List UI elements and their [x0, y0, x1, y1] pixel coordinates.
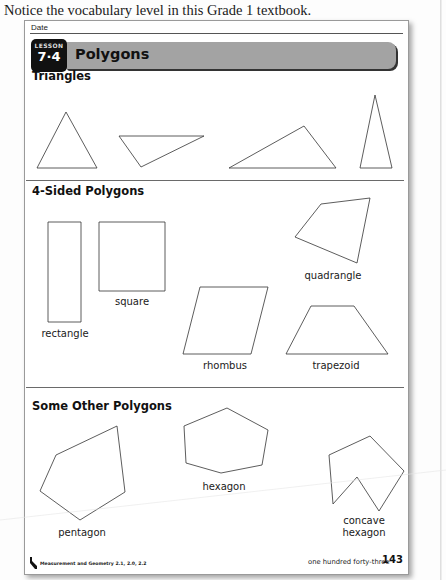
label-rectangle: rectangle	[41, 328, 88, 340]
isosceles-triangle-shape	[360, 95, 392, 168]
rhombus-shape	[183, 287, 268, 354]
label-hexagon: hexagon	[202, 481, 245, 493]
label-quadrangle: quadrangle	[304, 270, 361, 282]
concave-hexagon-shape	[329, 436, 404, 511]
label-concave-hexagon-line2: hexagon	[342, 527, 385, 539]
acute-triangle-shape	[37, 112, 97, 168]
hexagon-shape	[184, 408, 268, 473]
label-pentagon: pentagon	[58, 527, 106, 539]
polygon-shapes	[0, 0, 446, 580]
label-trapezoid: trapezoid	[312, 360, 359, 372]
obtuse-triangle-shape	[119, 136, 204, 167]
label-square: square	[115, 296, 149, 308]
quadrangle-shape	[295, 198, 370, 263]
label-concave-hexagon-line1: concave	[343, 515, 385, 527]
scalene-obtuse-triangle-shape	[229, 126, 336, 168]
screenshot-stage: Notice the vocabulary level in this Grad…	[0, 0, 446, 580]
label-rhombus: rhombus	[203, 360, 247, 372]
trapezoid-shape	[286, 306, 388, 354]
rectangle-shape	[48, 222, 81, 322]
square-shape	[99, 222, 165, 291]
pentagon-shape	[40, 426, 125, 520]
